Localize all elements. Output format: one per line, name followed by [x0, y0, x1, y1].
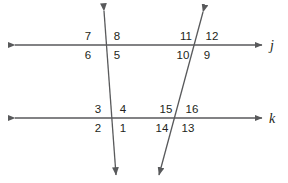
angle-6-label: 6 — [85, 49, 91, 61]
angle-13-label: 13 — [182, 122, 195, 134]
angle-3-label: 3 — [95, 103, 101, 115]
line-j: j — [15, 38, 274, 53]
angle-16-label: 16 — [186, 103, 199, 115]
angle-12-label: 12 — [206, 30, 219, 42]
line-j-label: j — [268, 38, 274, 53]
angle-9-label: 9 — [204, 49, 210, 61]
angle-1-label: 1 — [120, 122, 126, 134]
angle-11-label: 11 — [180, 30, 192, 42]
angle-14-label: 14 — [156, 122, 169, 134]
angle-4-label: 4 — [120, 103, 127, 115]
angle-10-label: 10 — [177, 49, 190, 61]
line-k: k — [15, 111, 276, 126]
line-k-label: k — [269, 111, 276, 126]
angle-8-label: 8 — [114, 30, 120, 42]
angle-5-label: 5 — [114, 49, 120, 61]
geometry-figure-canvas: j k 78651112109342115161413 — [0, 0, 288, 183]
parallel-lines-transversals-diagram: j k 78651112109342115161413 — [0, 0, 288, 183]
angle-2-label: 2 — [95, 122, 101, 134]
angle-15-label: 15 — [160, 103, 173, 115]
angle-7-label: 7 — [85, 30, 91, 42]
